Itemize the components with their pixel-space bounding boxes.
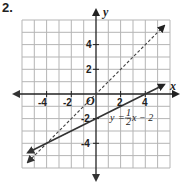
x-tick-2: 2 bbox=[117, 97, 123, 108]
origin-label: O bbox=[86, 94, 95, 108]
x-axis-label: x bbox=[169, 79, 176, 93]
svg-text:x − 2: x − 2 bbox=[131, 112, 153, 123]
svg-text:=: = bbox=[118, 112, 125, 123]
x-tick-neg4: -4 bbox=[38, 97, 47, 108]
y-tick-2: 2 bbox=[86, 64, 92, 75]
y-tick-4: 4 bbox=[86, 39, 92, 50]
y-axis-label: y bbox=[101, 5, 109, 19]
x-tick-4: 4 bbox=[142, 97, 148, 108]
axes bbox=[14, 10, 178, 180]
y-tick-neg2: -2 bbox=[81, 113, 90, 124]
y-tick-neg4: -4 bbox=[81, 138, 90, 149]
coordinate-graph: -4 -2 2 4 4 2 -2 -4 O y x y = 1 2 x − 2 bbox=[0, 0, 183, 186]
svg-text:y: y bbox=[109, 112, 115, 123]
equation-label: y = 1 2 x − 2 bbox=[109, 107, 153, 127]
svg-text:2: 2 bbox=[126, 116, 131, 127]
x-tick-neg2: -2 bbox=[63, 97, 72, 108]
